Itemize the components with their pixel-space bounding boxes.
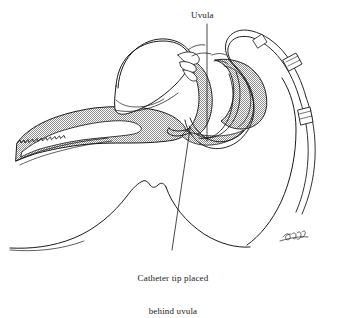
neck-chest-profile (10, 181, 250, 251)
catheter-caption-line-1: Catheter tip placed (118, 273, 228, 284)
catheter-leader-line (172, 129, 190, 250)
uvula-label: Uvula (191, 10, 214, 21)
catheter-caption: Catheter tip placed behind uvula (118, 251, 228, 318)
catheter-caption-line-2: behind uvula (118, 306, 228, 317)
artist-signature (280, 231, 308, 241)
pharyngeal-wall-structure (215, 59, 267, 129)
tongue-structure (16, 107, 186, 165)
hard-palate-structure (115, 41, 190, 114)
